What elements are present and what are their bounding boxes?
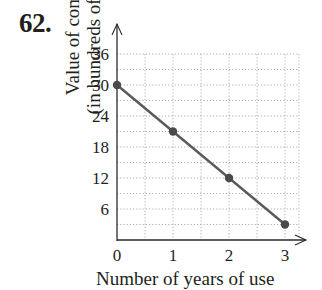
- y-tick-label: 30: [92, 76, 109, 95]
- x-tick-label: 3: [281, 246, 290, 265]
- x-tick-label: 1: [169, 246, 178, 265]
- x-tick-label: 0: [113, 246, 122, 265]
- data-point: [113, 81, 121, 89]
- y-tick-label: 6: [101, 200, 110, 219]
- y-tick-label: 18: [92, 138, 109, 157]
- data-point: [169, 127, 177, 135]
- y-tick-label: 24: [92, 107, 110, 126]
- y-tick-label: 36: [92, 45, 109, 64]
- x-tick-label: 2: [225, 246, 234, 265]
- data-point: [225, 174, 233, 182]
- x-axis-title: Number of years of use: [96, 268, 274, 290]
- data-point: [281, 220, 289, 228]
- y-tick-label: 12: [92, 169, 109, 188]
